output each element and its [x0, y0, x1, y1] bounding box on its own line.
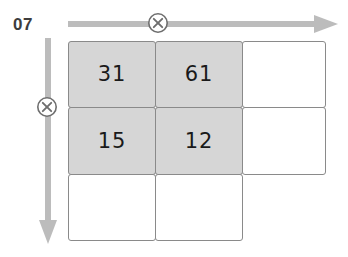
grid-cell-r0c1[interactable]: 61: [155, 41, 243, 108]
grid-cell-r1c0[interactable]: 15: [68, 107, 156, 175]
worksheet-diagram: 07 31 61 15 12: [0, 0, 348, 257]
arrow-right-icon: [66, 14, 338, 34]
circled-x-icon-row[interactable]: [36, 96, 58, 118]
circled-x-icon-column[interactable]: [147, 12, 169, 34]
cell-value: 61: [185, 64, 214, 85]
page-number-label: 07: [13, 16, 33, 33]
number-grid: 31 61 15 12: [68, 41, 326, 241]
grid-cell-r1c2[interactable]: [242, 107, 326, 175]
grid-cell-r2c0[interactable]: [68, 174, 156, 241]
grid-cell-r2c1[interactable]: [155, 174, 243, 241]
arrow-down-icon: [38, 36, 58, 244]
grid-cell-r0c2[interactable]: [242, 41, 326, 108]
grid-cell-r0c0[interactable]: 31: [68, 41, 156, 108]
cell-value: 15: [98, 131, 127, 152]
cell-value: 31: [98, 64, 127, 85]
grid-cell-r1c1[interactable]: 12: [155, 107, 243, 175]
cell-value: 12: [185, 131, 214, 152]
